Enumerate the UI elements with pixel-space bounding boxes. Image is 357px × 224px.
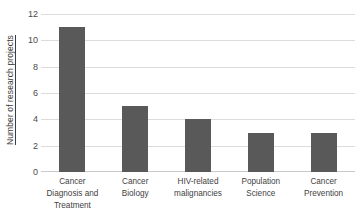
- bar-chart: Number of research projects 121086420 Ca…: [0, 0, 357, 224]
- y-axis-tick-label: 2: [18, 141, 38, 150]
- y-axis-ticks: 121086420: [18, 0, 38, 180]
- bar[interactable]: [248, 133, 274, 173]
- y-axis-tick-label: 0: [18, 168, 38, 177]
- x-axis-category-label: CancerBiology: [104, 176, 167, 200]
- y-axis-tick-label: 12: [18, 10, 38, 19]
- x-axis-category-label: PopulationScience: [229, 176, 292, 200]
- x-axis-category-label: HIV-relatedmalignancies: [167, 176, 230, 200]
- bar-slot: [229, 14, 292, 172]
- x-axis-category-label-line: Cancer: [42, 176, 103, 188]
- plot-area: [41, 14, 355, 172]
- x-axis-category-label: CancerDiagnosis andTreatment: [41, 176, 104, 212]
- y-axis-title-label: Number of research projects: [5, 35, 15, 145]
- y-axis-tick-label: 6: [18, 89, 38, 98]
- x-axis-category-label-line: Treatment: [42, 200, 103, 212]
- bar-series: [41, 14, 355, 172]
- bar-slot: [292, 14, 355, 172]
- bar[interactable]: [59, 27, 85, 172]
- bar-slot: [104, 14, 167, 172]
- x-axis-category-label-line: HIV-related: [168, 176, 229, 188]
- x-axis-category-label-line: Science: [230, 188, 291, 200]
- y-axis-tick-label: 10: [18, 36, 38, 45]
- bar[interactable]: [185, 119, 211, 172]
- bar-slot: [167, 14, 230, 172]
- bar[interactable]: [311, 133, 337, 173]
- x-axis-category-label-line: malignancies: [168, 188, 229, 200]
- y-axis-title: Number of research projects: [0, 0, 20, 180]
- x-axis-labels: CancerDiagnosis andTreatmentCancerBiolog…: [41, 176, 355, 212]
- x-axis-category-label-line: Population: [230, 176, 291, 188]
- bar-slot: [41, 14, 104, 172]
- x-axis-category-label-line: Cancer: [293, 176, 354, 188]
- y-axis-tick-label: 4: [18, 115, 38, 124]
- x-axis-category-label-line: Prevention: [293, 188, 354, 200]
- x-axis-category-label-line: Diagnosis and: [42, 188, 103, 200]
- x-axis-category-label-line: Biology: [105, 188, 166, 200]
- y-axis-tick-label: 8: [18, 62, 38, 71]
- x-axis-category-label: CancerPrevention: [292, 176, 355, 200]
- bar[interactable]: [122, 106, 148, 172]
- x-axis-category-label-line: Cancer: [105, 176, 166, 188]
